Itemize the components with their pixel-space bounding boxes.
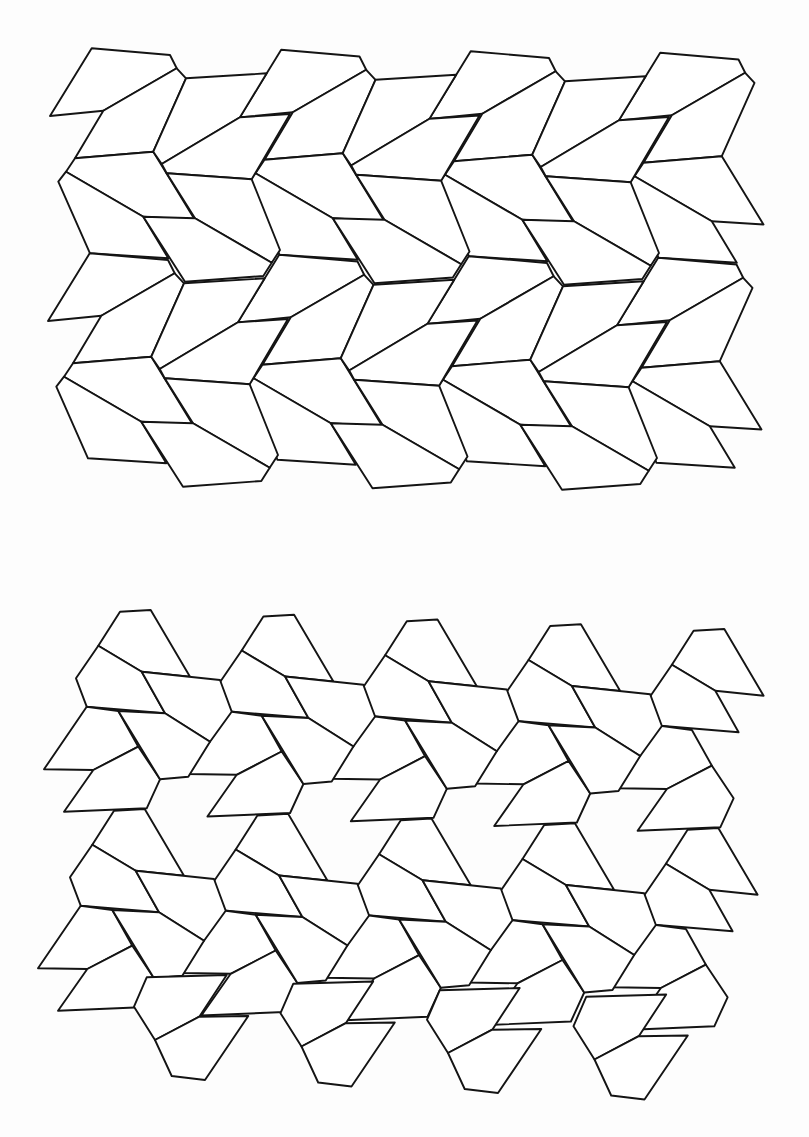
tilings-canvas [0, 0, 809, 1137]
lower-pentagon-tiling [38, 610, 764, 1100]
page [0, 0, 809, 1137]
upper-pentagon-tiling [48, 48, 764, 489]
